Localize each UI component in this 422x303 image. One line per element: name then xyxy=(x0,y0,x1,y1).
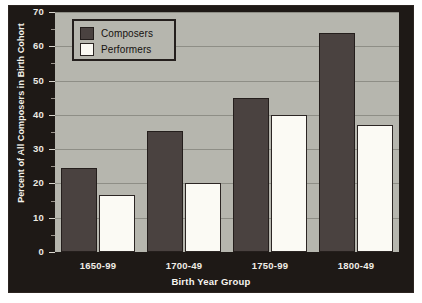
bar-performers-1700-49 xyxy=(185,183,221,252)
bar-performers-1650-99 xyxy=(99,195,135,252)
y-axis-tick-label: 0 xyxy=(4,246,44,257)
bar-composers-1750-99 xyxy=(233,98,269,252)
bar-performers-1800-49 xyxy=(357,125,393,252)
x-axis-tick-label: 1700-49 xyxy=(141,260,227,271)
y-axis-tick-label: 70 xyxy=(4,6,44,17)
y-axis-tick-label: 10 xyxy=(4,212,44,223)
legend-label-composers: Composers xyxy=(101,28,153,39)
legend: Composers Performers xyxy=(72,19,176,61)
y-axis-tick-label: 50 xyxy=(4,75,44,86)
bar-composers-1800-49 xyxy=(319,33,355,252)
x-axis-tick-label: 1650-99 xyxy=(55,260,141,271)
legend-swatch-performers xyxy=(80,43,94,56)
y-axis-tick-label: 40 xyxy=(4,109,44,120)
chart-figure: Percent of All Composers in Birth Cohort… xyxy=(0,0,422,303)
legend-swatch-composers xyxy=(80,27,94,40)
y-axis-tick-label: 30 xyxy=(4,143,44,154)
y-axis-tick-label: 20 xyxy=(4,177,44,188)
legend-item-performers: Performers xyxy=(80,41,168,57)
bar-composers-1700-49 xyxy=(147,131,183,252)
y-axis-tick-label: 60 xyxy=(4,40,44,51)
bar-composers-1650-99 xyxy=(61,168,97,252)
x-axis-title: Birth Year Group xyxy=(0,276,422,287)
legend-item-composers: Composers xyxy=(80,25,168,41)
legend-label-performers: Performers xyxy=(101,44,151,55)
y-axis-tick xyxy=(49,252,55,253)
bar-performers-1750-99 xyxy=(271,115,307,252)
x-axis-tick-label: 1800-49 xyxy=(313,260,399,271)
x-axis-tick-label: 1750-99 xyxy=(227,260,313,271)
